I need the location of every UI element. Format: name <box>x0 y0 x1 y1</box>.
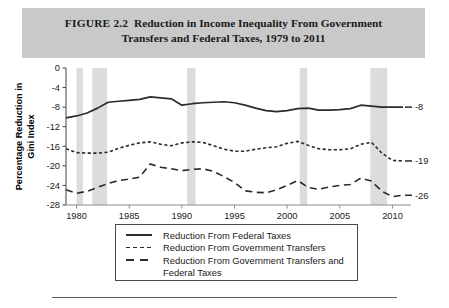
figure-container: FIGURE 2.2 Reduction in Income Inequalit… <box>0 0 449 308</box>
y-tick-label: -4 <box>52 83 60 93</box>
y-tick-label: -24 <box>47 181 60 191</box>
series-end-label: -26 <box>415 191 428 201</box>
legend-item-label: Reduction From Government Transfers <box>163 242 326 253</box>
recession-band <box>370 68 387 205</box>
figure-title-line2: Transfers and Federal Taxes, 1979 to 201… <box>122 32 326 44</box>
legend-item-label: Reduction From Government Transfers and <box>163 255 344 266</box>
y-tick-label: 0 <box>55 63 60 73</box>
legend-rows: Reduction From Federal Taxes Reduction F… <box>116 225 357 278</box>
y-tick-label: -20 <box>47 161 60 171</box>
recession-band <box>77 68 83 205</box>
legend-item-federal-taxes: Reduction From Federal Taxes <box>124 229 357 242</box>
y-tick-label: -8 <box>52 102 60 112</box>
chart-legend: Reduction From Federal Taxes Reduction F… <box>115 224 358 281</box>
x-tick-label: 1995 <box>224 211 245 221</box>
solid-line-swatch-icon <box>124 230 154 240</box>
legend-item-label-continuation: Federal Taxes <box>163 267 357 278</box>
x-tick-label: 2010 <box>382 211 403 221</box>
series-line <box>66 164 403 197</box>
legend-item-government-transfers: Reduction From Government Transfers <box>124 242 357 255</box>
dashed-line-swatch-icon <box>124 255 154 265</box>
series-end-label: -8 <box>415 102 423 112</box>
legend-item-transfers-and-taxes: Reduction From Government Transfers and <box>124 254 357 267</box>
series-line <box>66 97 403 118</box>
y-tick-label: -28 <box>47 200 60 210</box>
legend-item-label: Reduction From Federal Taxes <box>163 230 291 241</box>
x-tick-label: 1990 <box>172 211 193 221</box>
series-line <box>66 141 403 161</box>
line-chart: 0-4-8-12-16-20-24-2819801985199019952000… <box>0 58 449 228</box>
figure-number: FIGURE 2.2 <box>65 17 128 29</box>
y-tick-label: -12 <box>47 122 60 132</box>
y-tick-label: -16 <box>47 142 60 152</box>
y-axis-title: Gini Index <box>26 113 36 158</box>
figure-header-text: FIGURE 2.2 Reduction in Income Inequalit… <box>22 8 425 58</box>
y-axis-title: Percentage Reduction in <box>14 82 24 190</box>
x-tick-label: 1980 <box>66 211 87 221</box>
x-tick-label: 2000 <box>277 211 298 221</box>
x-tick-label: 1985 <box>119 211 140 221</box>
series-end-label: -19 <box>415 156 428 166</box>
chart-area: 0-4-8-12-16-20-24-2819801985199019952000… <box>0 58 449 228</box>
recession-band <box>187 68 195 205</box>
footer-divider <box>52 297 397 298</box>
figure-title-line1: Reduction in Income Inequality From Gove… <box>134 17 382 29</box>
dotted-line-swatch-icon <box>124 243 154 253</box>
x-tick-label: 2005 <box>329 211 350 221</box>
